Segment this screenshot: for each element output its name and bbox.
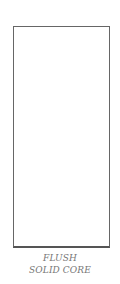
door-caption: FLUSH SOLID CORE [0, 252, 120, 276]
caption-line-2: SOLID CORE [0, 264, 120, 276]
caption-line-1: FLUSH [0, 252, 120, 264]
flush-door-outline [13, 26, 110, 248]
